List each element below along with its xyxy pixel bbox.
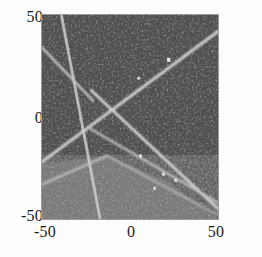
x-axis-tick-label-right: 50 (208, 224, 224, 240)
density-plot-panel (41, 14, 219, 220)
x-axis-tick-label-left: -50 (34, 224, 56, 240)
figure-container: 50 0 -50 -50 0 50 (0, 0, 262, 257)
noise-overlay (42, 15, 218, 219)
x-axis-tick-label-middle: 0 (127, 224, 135, 240)
density-plot-svg (42, 15, 218, 219)
y-axis-tick-label-bottom: -50 (21, 208, 43, 224)
